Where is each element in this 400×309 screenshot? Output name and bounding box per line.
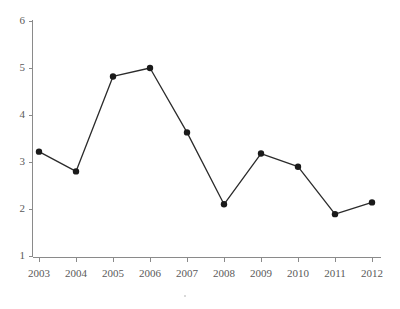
y-tick-label: 5	[9, 62, 25, 73]
data-point-markers	[36, 65, 375, 218]
data-point-2011	[332, 211, 338, 217]
x-tick-label: 2010	[278, 268, 318, 279]
data-point-2003	[36, 148, 42, 154]
y-tick-label: 6	[9, 15, 25, 26]
data-point-2008	[221, 201, 227, 207]
line-chart: 123456 200320042005200620072008200920102…	[0, 0, 400, 309]
data-point-2005	[110, 73, 116, 79]
x-tick-label: 2012	[352, 268, 392, 279]
x-tick-label: 2006	[130, 268, 170, 279]
y-tick-label: 4	[9, 109, 25, 120]
y-tick-label: 2	[9, 203, 25, 214]
y-tick-marks	[29, 22, 33, 257]
x-tick-label: 2011	[315, 268, 355, 279]
page-speck	[184, 295, 186, 297]
y-tick-label: 1	[9, 250, 25, 261]
plot-area	[0, 0, 400, 309]
data-point-2010	[295, 164, 301, 170]
data-point-2009	[258, 150, 264, 156]
data-point-2007	[184, 129, 190, 135]
x-tick-label: 2003	[19, 268, 59, 279]
x-tick-label: 2009	[241, 268, 281, 279]
data-point-2012	[369, 199, 375, 205]
data-line-series-1	[39, 68, 372, 214]
axes-group	[33, 20, 382, 258]
data-point-2004	[73, 168, 79, 174]
x-tick-label: 2004	[56, 268, 96, 279]
x-tick-label: 2005	[93, 268, 133, 279]
x-tick-label: 2007	[167, 268, 207, 279]
x-tick-marks	[40, 258, 373, 263]
y-tick-label: 3	[9, 156, 25, 167]
data-point-2006	[147, 65, 153, 71]
x-tick-label: 2008	[204, 268, 244, 279]
